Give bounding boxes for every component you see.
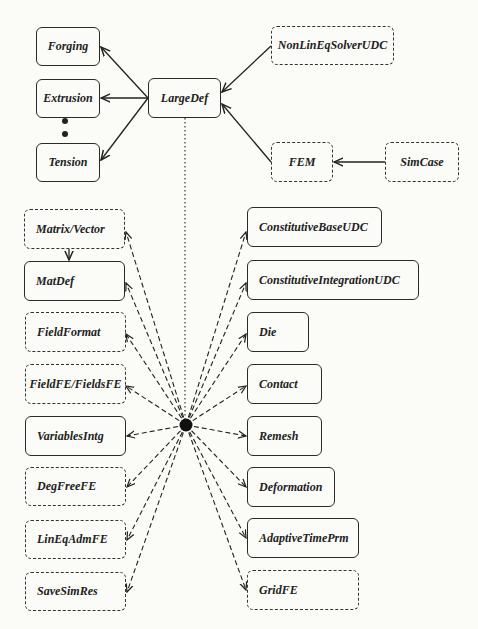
node-fieldformat: FieldFormat	[25, 312, 126, 352]
node-label: Die	[259, 325, 276, 340]
node-extrusion: Extrusion	[36, 79, 100, 118]
edge-3	[222, 46, 271, 92]
node-variablesintg: VariablesIntg	[25, 416, 126, 456]
node-largedef: LargeDef	[148, 78, 221, 118]
edge-23	[186, 425, 246, 590]
node-label: Remesh	[259, 429, 298, 444]
node-label: Contact	[259, 377, 298, 392]
edge-14	[127, 425, 186, 540]
node-label: Deformation	[259, 480, 322, 495]
node-nonlineqsolverudc: NonLinEqSolverUDC	[271, 26, 394, 65]
node-forging: Forging	[36, 27, 100, 66]
edge-11	[126, 386, 186, 425]
node-die: Die	[247, 312, 309, 352]
edge-10	[126, 334, 186, 425]
edge-19	[186, 386, 246, 425]
node-lineqadmfe: LinEqAdmFE	[25, 520, 126, 559]
node-tension: Tension	[36, 143, 100, 182]
node-label: GridFE	[259, 583, 298, 598]
edge-2	[101, 98, 148, 160]
node-label: AdaptiveTimePrm	[259, 531, 349, 546]
edge-17	[186, 283, 246, 425]
node-label: LargeDef	[161, 91, 208, 106]
node-matdef: MatDef	[24, 261, 125, 301]
node-label: LinEqAdmFE	[37, 532, 108, 547]
node-label: MatDef	[36, 274, 74, 289]
node-constitutivebaseudc: ConstitutiveBaseUDC	[247, 207, 382, 247]
edge-18	[186, 334, 246, 425]
node-label: Forging	[48, 39, 89, 54]
hub-node	[180, 419, 193, 432]
node-adaptivetimeprm: AdaptiveTimePrm	[247, 518, 359, 558]
node-contact: Contact	[247, 364, 322, 404]
edge-4	[222, 104, 271, 162]
ellipsis-dot-1	[62, 131, 68, 137]
node-savesimres: SaveSimRes	[25, 572, 126, 611]
node-label: Tension	[49, 155, 88, 170]
node-label: ConstitutiveBaseUDC	[259, 220, 368, 235]
node-label: NonLinEqSolverUDC	[278, 38, 387, 53]
node-label: VariablesIntg	[37, 429, 104, 444]
node-gridfe: GridFE	[247, 570, 359, 610]
node-label: Matrix/Vector	[36, 222, 105, 237]
edge-8	[126, 232, 186, 425]
node-deformation: Deformation	[247, 467, 335, 507]
edge-22	[186, 425, 246, 538]
node-fem: FEM	[271, 142, 333, 182]
node-fieldfe: FieldFE/FieldsFE	[25, 364, 126, 404]
node-remesh: Remesh	[247, 416, 322, 456]
node-label: FEM	[289, 155, 316, 170]
node-label: DegFreeFE	[37, 479, 96, 494]
node-degfreefe: DegFreeFE	[25, 467, 126, 506]
node-label: SaveSimRes	[37, 584, 98, 599]
node-label: SimCase	[400, 155, 443, 170]
node-matrixvector: Matrix/Vector	[24, 209, 125, 249]
ellipsis-dot-0	[62, 118, 68, 124]
edge-0	[101, 47, 148, 98]
edge-9	[126, 283, 186, 425]
node-simcase: SimCase	[385, 142, 459, 182]
node-label: FieldFormat	[37, 325, 100, 340]
edge-16	[186, 232, 246, 425]
node-label: Extrusion	[43, 91, 92, 106]
node-constitutiveintegrationudc: ConstitutiveIntegrationUDC	[247, 260, 419, 300]
node-label: ConstitutiveIntegrationUDC	[259, 273, 400, 288]
node-label: FieldFE/FieldsFE	[29, 377, 121, 392]
edge-15	[127, 425, 186, 592]
